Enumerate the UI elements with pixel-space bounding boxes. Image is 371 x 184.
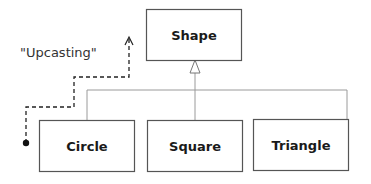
class-label-square: Square — [169, 139, 221, 154]
class-box-shape[interactable]: Shape — [147, 10, 242, 61]
class-label-triangle: Triangle — [272, 138, 331, 153]
class-label-circle: Circle — [66, 139, 108, 154]
upcasting-note: "Upcasting" — [20, 45, 97, 60]
inheritance-arrowhead-icon — [190, 60, 200, 73]
class-box-circle[interactable]: Circle — [40, 121, 135, 172]
diagram-canvas: "Upcasting" Shape Circle Square Triangle — [0, 0, 371, 184]
class-label-shape: Shape — [171, 28, 217, 43]
class-box-square[interactable]: Square — [148, 121, 243, 172]
inheritance-connectors — [87, 67, 347, 120]
class-box-triangle[interactable]: Triangle — [254, 120, 349, 171]
upcasting-origin-dot-icon — [23, 140, 29, 146]
